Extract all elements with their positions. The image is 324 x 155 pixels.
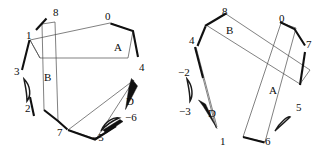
right-band-A: [243, 23, 296, 142]
right-vertex-label-minus-2: −2: [178, 67, 190, 78]
left-vertex-label-4: 4: [139, 62, 145, 73]
left-vertex-label-minus-6: −6: [125, 112, 137, 123]
right-vertex-label-6: 6: [265, 136, 271, 147]
left-region-label-D: D: [126, 96, 134, 107]
right-region-label-A: A: [269, 85, 277, 96]
left-vertex-label-3: 3: [14, 66, 20, 77]
left-vertex-label-7: 7: [57, 127, 63, 138]
right-vertex-label-minus-3: −3: [179, 106, 191, 117]
left-region-label-B: B: [44, 72, 51, 83]
left-vertex-label-minus-5: −5: [92, 132, 104, 143]
left-region-label-A: A: [114, 42, 122, 53]
left-vertex-label-8: 8: [53, 7, 59, 18]
right-vertex-label-4: 4: [189, 35, 195, 46]
left-vertex-label-1: 1: [26, 30, 32, 41]
left-vertex-label-0: 0: [105, 11, 111, 22]
right-vertex-label-0: 0: [279, 13, 285, 24]
right-bold-edges: [195, 14, 305, 143]
right-vertex-label-1: 1: [220, 136, 226, 147]
right-vertex-label-8: 8: [222, 6, 228, 17]
right-vertex-label-7: 7: [306, 39, 312, 50]
right-vertex-label-5: 5: [296, 102, 302, 113]
right-region-label-D: D: [208, 108, 216, 119]
right-band-B: [206, 14, 310, 84]
right-lens-shape-lower: [275, 117, 290, 131]
figure-container: 8 0 1 3 4 2 7 −6 −5 A B D 8 0 4 7 −2 5 −…: [0, 0, 324, 155]
right-region-label-B: B: [226, 25, 233, 36]
left-vertex-label-2: 2: [25, 103, 31, 114]
right-lens-shape-upper: [187, 79, 192, 101]
